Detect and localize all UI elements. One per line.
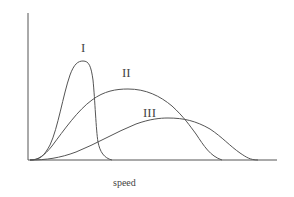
curve-iii (30, 118, 258, 160)
curve-label-i: I (81, 40, 85, 55)
curve-label-ii: II (122, 65, 131, 80)
curve-label-iii: III (143, 105, 156, 120)
x-axis-label: speed (113, 177, 136, 188)
curve-i (30, 61, 112, 160)
chart-canvas: I II III speed (0, 0, 294, 197)
speed-distribution-chart: I II III speed (0, 0, 294, 197)
curve-ii (30, 89, 222, 160)
